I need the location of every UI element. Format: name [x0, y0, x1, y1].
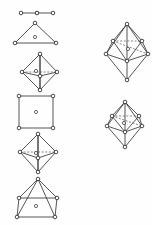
polyhedron-edge [127, 41, 142, 61]
polyhedron-edge [125, 102, 139, 116]
vertex-atom [54, 150, 58, 154]
vertex-atom [137, 114, 141, 118]
polyhedron-edge [40, 72, 57, 76]
central-atom [34, 151, 37, 154]
polyhedron-edge [113, 41, 127, 61]
vertex-atom [38, 74, 42, 78]
polyhedron-edge [22, 54, 40, 72]
polyhedron-edge [106, 24, 127, 54]
polyhedron-pentagonal-bipyramid [101, 21, 151, 83]
vertex-atom [53, 215, 57, 219]
vertex-atom [15, 215, 19, 219]
polyhedron-square-planar [16, 93, 56, 131]
polyhedron-trigonal-bipyramid [17, 131, 59, 175]
polyhedron-edge [106, 41, 113, 54]
central-atom [34, 69, 37, 72]
vertex-atom [17, 126, 21, 130]
vertex-atom [51, 11, 55, 15]
vertex-atom [55, 196, 59, 200]
vertex-atom [18, 150, 22, 154]
vertex-atom [17, 94, 21, 98]
vertex-atom [125, 78, 129, 82]
polyhedron-edge [35, 23, 56, 43]
vertex-atom [105, 124, 109, 128]
vertex-atom [36, 156, 40, 160]
vertex-atom [36, 177, 40, 181]
vertex-atom [35, 11, 39, 15]
vertex-atom [51, 94, 55, 98]
polyhedron-edge [38, 134, 56, 152]
central-atom [33, 35, 36, 38]
polyhedron-edge [55, 198, 57, 217]
central-atom [34, 204, 37, 207]
polyhedron-edge [40, 54, 57, 72]
polyhedron-edge [22, 72, 40, 90]
central-atom [34, 110, 37, 113]
polyhedron-edge [38, 179, 57, 198]
polyhedron-edge [15, 23, 35, 43]
vertex-atom [146, 52, 150, 56]
vertex-atom [54, 41, 58, 45]
vertex-atom [51, 126, 55, 130]
vertex-atom [20, 70, 24, 74]
polyhedron-edge [40, 72, 57, 90]
vertex-atom [38, 88, 42, 92]
polyhedron-tetrahedron [19, 51, 60, 93]
vertex-atom [38, 52, 42, 56]
polyhedron-edge [20, 134, 38, 152]
polyhedron-trigonal-planar [12, 20, 59, 46]
vertex-atom [110, 114, 114, 118]
vertex-atom [36, 170, 40, 174]
vertex-atom [125, 59, 129, 63]
vertex-atom [140, 39, 144, 43]
vertex-atom [19, 11, 23, 15]
vertex-atom [123, 130, 127, 134]
vertex-atom [125, 22, 129, 26]
vertex-atom [140, 124, 144, 128]
polyhedron-edge [22, 72, 40, 76]
vertex-atom [13, 41, 17, 45]
vertex-atom [17, 196, 21, 200]
polyhedron-bicapped-bipyramid [103, 99, 145, 150]
polyhedron-linear [18, 7, 56, 16]
polyhedron-square-pyramid [14, 176, 60, 220]
vertex-atom [111, 39, 115, 43]
central-atom [126, 47, 129, 50]
central-atom [122, 121, 125, 124]
polyhedron-edge [19, 179, 38, 198]
vertex-atom [123, 100, 127, 104]
vertex-atom [123, 145, 127, 149]
vertex-atom [36, 132, 40, 136]
polyhedra-figure [0, 0, 152, 225]
vertex-atom [104, 52, 108, 56]
vertex-atom [33, 21, 37, 25]
vertex-atom [55, 70, 59, 74]
polyhedron-edge [127, 24, 148, 54]
